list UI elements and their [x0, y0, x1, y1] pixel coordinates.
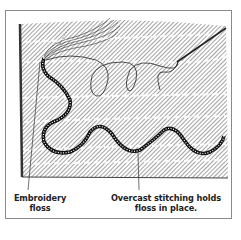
label-line: floss in place. [108, 203, 224, 213]
label-line: floss [8, 203, 72, 213]
label-overcast-stitching: Overcast stitching holds floss in place. [108, 193, 224, 213]
label-line: Embroidery [8, 193, 72, 203]
label-embroidery-floss: Embroidery floss [8, 193, 72, 213]
label-line: Overcast stitching holds [108, 193, 224, 203]
fabric [20, 20, 228, 178]
